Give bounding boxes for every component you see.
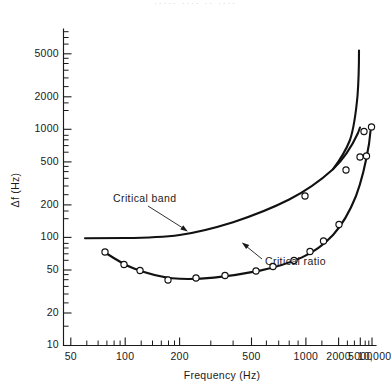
- chart-plot: 10 20 50 100 200 500 1000 2000 5000: [0, 0, 391, 384]
- x-label: 500: [242, 350, 260, 362]
- data-point: [222, 272, 228, 278]
- axis-frame: [64, 29, 377, 346]
- data-point: [363, 153, 369, 159]
- critical-ratio-curve: [105, 131, 371, 279]
- y-label: 200: [41, 198, 59, 210]
- y-axis-title: Δf (Hz): [9, 173, 21, 208]
- data-point: [320, 238, 326, 244]
- x-label: 50: [65, 350, 77, 362]
- critical-band-arrow-icon: [180, 225, 188, 231]
- x-axis-tick-labels: 50 100 200 500 1000 2000 5000 10,000: [65, 350, 391, 362]
- data-point: [307, 248, 313, 254]
- critical-band-curve-upper: [333, 51, 359, 170]
- data-point: [165, 277, 171, 283]
- data-point: [137, 267, 143, 273]
- critical-ratio-label: Critical ratio: [265, 255, 326, 267]
- x-label: 10,000: [358, 350, 391, 362]
- data-point: [121, 261, 127, 267]
- annotation-critical-band: Critical band: [113, 192, 188, 232]
- y-axis-ticks: [64, 32, 72, 346]
- annotation-critical-ratio: Critical ratio: [242, 243, 326, 267]
- y-axis-tick-labels: 10 20 50 100 200 500 1000 2000 5000: [34, 47, 59, 351]
- y-label: 10: [47, 338, 59, 350]
- critical-band-label: Critical band: [113, 192, 177, 204]
- y-label: 100: [41, 230, 59, 242]
- data-point: [193, 275, 199, 281]
- data-point: [357, 154, 363, 160]
- x-label: 100: [116, 350, 134, 362]
- y-label: 1000: [34, 122, 59, 134]
- y-label: 50: [47, 263, 59, 275]
- data-point: [368, 124, 374, 130]
- y-label: 5000: [34, 47, 59, 59]
- x-label: 1000: [294, 350, 319, 362]
- y-label: 500: [41, 155, 59, 167]
- critical-band-curve: [85, 128, 360, 239]
- data-point: [343, 167, 349, 173]
- x-axis-ticks: [71, 338, 372, 346]
- data-point-outlier: [302, 193, 308, 199]
- data-point: [361, 128, 367, 134]
- figure-container: ····· ···· ·· ····: [0, 0, 391, 384]
- critical-band-leader-line: [148, 206, 186, 230]
- data-point: [253, 268, 259, 274]
- data-point: [102, 249, 108, 255]
- y-label: 2000: [34, 90, 59, 102]
- data-point: [336, 221, 342, 227]
- x-axis-title: Frequency (Hz): [184, 369, 261, 381]
- y-label: 20: [47, 306, 59, 318]
- x-label: 200: [170, 350, 188, 362]
